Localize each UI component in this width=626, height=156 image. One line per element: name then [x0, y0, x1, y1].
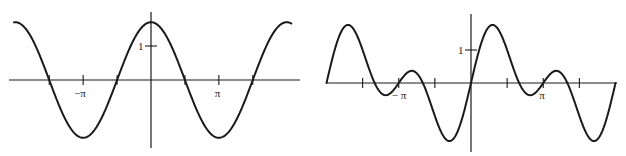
tick-label-pi: π	[215, 87, 221, 99]
figure: −π π 1 − π π 1	[0, 0, 626, 156]
tick-label-pi: π	[539, 89, 545, 101]
tick-label-one: 1	[458, 44, 464, 56]
plot-cosine: −π π 1	[9, 12, 300, 148]
plot-sin-sum: − π π 1	[326, 14, 617, 152]
tick-label-neg-pi: − π	[392, 89, 407, 101]
tick-label-one: 1	[138, 40, 144, 52]
tick-label-neg-pi: −π	[74, 87, 86, 99]
